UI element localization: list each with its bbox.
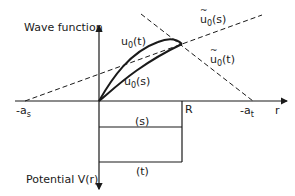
u0-s-curve [99,44,182,101]
singlet-well-label: (s) [135,116,149,127]
R-label: R [185,104,193,115]
u0-t-label: u0(t) [121,36,146,47]
wave-function-label: Wave function [24,22,103,33]
potential-label: Potential V(r) [26,174,98,185]
r-axis-label: r [275,105,280,116]
neg-as-label: -as [16,105,31,116]
u0-s-label: u0(s) [124,76,150,87]
triplet-well-label: (t) [136,166,149,177]
u0-tilde-t-label: u0(t) [210,54,235,65]
u0-tilde-s-label: u0(s) [200,14,226,25]
neg-at-label: -at [240,105,254,116]
